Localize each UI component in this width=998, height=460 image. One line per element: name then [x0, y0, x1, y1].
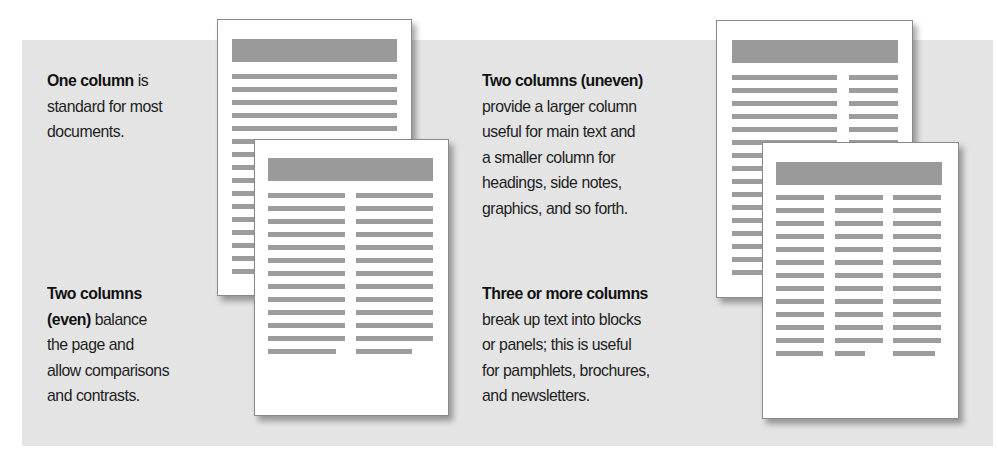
page-text-line — [893, 299, 941, 304]
page-text-line — [356, 258, 433, 263]
page-text-line — [776, 338, 824, 343]
page-text-line — [356, 232, 433, 237]
page-text-line — [356, 193, 433, 198]
page-text-line — [268, 193, 345, 198]
page-text-line — [356, 206, 433, 211]
page-header-bar — [232, 39, 397, 62]
page-text-line — [849, 88, 898, 93]
page-text-line — [835, 260, 883, 265]
page-text-line — [835, 247, 883, 252]
three-columns-title: Three or more columns — [482, 284, 648, 303]
page-text-line — [268, 232, 345, 237]
page-text-line — [893, 221, 941, 226]
page-text-line — [732, 101, 837, 106]
page-text-line — [776, 234, 824, 239]
page-text-line — [356, 219, 433, 224]
three-columns-page-illustration — [762, 142, 959, 419]
page-text-line — [776, 286, 824, 291]
page-text-line — [835, 195, 883, 200]
page-text-line — [356, 284, 433, 289]
page-text-line — [893, 208, 941, 213]
page-text-line — [268, 219, 345, 224]
page-text-line — [356, 310, 433, 315]
page-text-line — [232, 113, 397, 118]
page-text-line — [835, 234, 883, 239]
one-column-title: One column — [47, 71, 134, 90]
page-header-bar — [732, 40, 898, 63]
page-text-line — [356, 271, 433, 276]
page-text-line — [268, 245, 345, 250]
page-text-line — [776, 195, 824, 200]
page-text-line — [835, 221, 883, 226]
page-text-line — [893, 351, 935, 356]
three-columns-description: Three or more columns break up text into… — [482, 281, 650, 409]
page-header-bar — [776, 162, 942, 185]
page-text-line — [268, 323, 345, 328]
two-columns-uneven-title: Two columns (uneven) — [482, 71, 643, 90]
page-text-line — [893, 286, 941, 291]
page-text-line — [268, 284, 345, 289]
two-columns-uneven-description: Two columns (uneven) provide a larger co… — [482, 68, 643, 221]
page-text-line — [268, 258, 345, 263]
page-text-line — [776, 351, 823, 356]
page-text-line — [893, 325, 941, 330]
page-text-line — [835, 208, 883, 213]
page-text-line — [776, 325, 824, 330]
page-text-line — [893, 195, 941, 200]
page-text-line — [232, 74, 397, 79]
page-text-line — [776, 221, 824, 226]
page-text-line — [732, 75, 837, 80]
page-text-line — [776, 260, 824, 265]
page-text-line — [849, 101, 898, 106]
page-text-line — [356, 297, 433, 302]
page-text-line — [232, 87, 397, 92]
page-text-line — [356, 323, 433, 328]
page-text-line — [356, 245, 433, 250]
page-text-line — [835, 286, 883, 291]
page-text-line — [849, 75, 898, 80]
page-text-line — [268, 336, 345, 341]
page-text-line — [893, 234, 941, 239]
page-text-line — [776, 208, 824, 213]
page-text-line — [356, 349, 412, 354]
page-text-line — [268, 349, 336, 354]
page-text-line — [268, 206, 345, 211]
page-text-line — [893, 338, 941, 343]
page-text-line — [268, 271, 345, 276]
page-text-line — [893, 247, 941, 252]
page-text-line — [776, 299, 824, 304]
page-text-line — [835, 338, 883, 343]
page-text-line — [835, 312, 883, 317]
page-text-line — [893, 312, 941, 317]
page-text-line — [732, 127, 837, 132]
two-columns-even-page-illustration — [254, 139, 449, 416]
page-text-line — [849, 114, 898, 119]
page-text-line — [732, 88, 837, 93]
page-text-line — [849, 127, 898, 132]
two-columns-even-description: Two columns (even) balance the page and … — [47, 281, 169, 409]
page-text-line — [776, 312, 824, 317]
page-text-line — [835, 351, 865, 356]
page-text-line — [356, 336, 433, 341]
two-columns-even-title: Two columns — [47, 284, 142, 303]
page-text-line — [835, 325, 883, 330]
page-text-line — [232, 126, 397, 131]
page-text-line — [268, 297, 345, 302]
page-header-bar — [268, 158, 433, 181]
page-text-line — [232, 100, 397, 105]
page-text-line — [835, 299, 883, 304]
page-text-line — [776, 273, 824, 278]
one-column-description: One column is standard for most document… — [47, 68, 162, 145]
page-text-line — [893, 273, 941, 278]
page-text-line — [893, 260, 941, 265]
page-text-line — [268, 310, 345, 315]
page-text-line — [732, 114, 837, 119]
page-text-line — [835, 273, 883, 278]
page-text-line — [776, 247, 824, 252]
